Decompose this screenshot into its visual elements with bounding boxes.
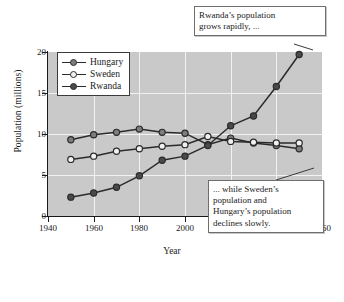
callout-rwanda-line2: grows rapidly, ... <box>199 21 321 32</box>
data-point[interactable] <box>68 194 74 200</box>
data-point[interactable] <box>136 146 142 152</box>
callout-rwanda-line1: Rwanda’s population <box>199 10 321 21</box>
data-point[interactable] <box>205 142 211 148</box>
data-point[interactable] <box>113 148 119 154</box>
legend-marker-rwanda-icon <box>62 80 86 92</box>
data-point[interactable] <box>68 137 74 143</box>
data-point[interactable] <box>205 133 211 139</box>
chart-legend: Hungary Sweden Rwanda <box>57 52 130 96</box>
data-point[interactable] <box>273 83 279 89</box>
data-point[interactable] <box>182 130 188 136</box>
data-point[interactable] <box>159 157 165 163</box>
legend-label-hungary: Hungary <box>86 57 123 67</box>
data-point[interactable] <box>68 156 74 162</box>
data-point[interactable] <box>250 113 256 119</box>
data-point[interactable] <box>228 123 234 129</box>
data-point[interactable] <box>113 129 119 135</box>
callout-decline-line1: ... while Sweden’s <box>213 184 319 195</box>
series-layer <box>0 0 344 302</box>
legend-label-rwanda: Rwanda <box>86 81 121 91</box>
data-point[interactable] <box>182 153 188 159</box>
callout-decline-line3: Hungary’s population <box>213 206 319 217</box>
data-point[interactable] <box>273 140 279 146</box>
data-point[interactable] <box>250 139 256 145</box>
data-point[interactable] <box>136 173 142 179</box>
data-point[interactable] <box>296 140 302 146</box>
data-point[interactable] <box>91 132 97 138</box>
legend-marker-sweden-icon <box>62 68 86 80</box>
legend-item-rwanda[interactable]: Rwanda <box>62 80 123 92</box>
callout-decline-line2: population and <box>213 195 319 206</box>
callout-rwanda-growth: Rwanda’s population grows rapidly, ... <box>194 6 326 36</box>
data-point[interactable] <box>228 138 234 144</box>
callout-leader-lines <box>276 44 314 180</box>
data-point[interactable] <box>91 190 97 196</box>
legend-item-hungary[interactable]: Hungary <box>62 56 123 68</box>
callout-decline: ... while Sweden’s population and Hungar… <box>208 180 324 233</box>
legend-item-sweden[interactable]: Sweden <box>62 68 123 80</box>
data-point[interactable] <box>159 129 165 135</box>
legend-marker-hungary-icon <box>62 56 86 68</box>
data-point[interactable] <box>136 126 142 132</box>
data-point[interactable] <box>159 143 165 149</box>
legend-label-sweden: Sweden <box>86 69 120 79</box>
data-point[interactable] <box>182 142 188 148</box>
population-line-chart-figure: 20 15 10 5 0 1940 1960 1980 2000 2020 20… <box>0 0 344 302</box>
data-point[interactable] <box>296 51 302 57</box>
callout-decline-line4: declines slowly. <box>213 218 319 229</box>
data-point[interactable] <box>91 153 97 159</box>
data-point[interactable] <box>113 184 119 190</box>
